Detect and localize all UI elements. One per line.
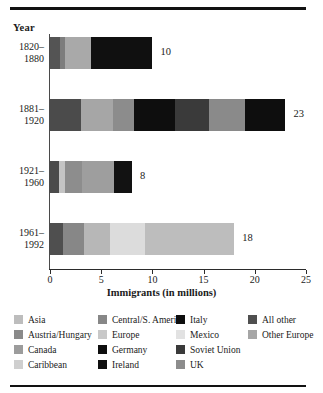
plot-area: Year 0510152025 1023818 1820–18801881–19…: [0, 18, 323, 280]
x-tick-label: 25: [293, 274, 319, 285]
bar-value-label: 8: [140, 170, 145, 181]
x-axis-line: [49, 269, 306, 270]
bar-value-label: 18: [242, 232, 253, 243]
bar-segment: [114, 161, 131, 193]
legend-column: ItalyMexicoSoviet UnionUK: [176, 312, 240, 372]
legend-item: All other: [248, 312, 313, 327]
legend-label: Austria/Hungary: [28, 330, 92, 340]
bar-segment: [63, 223, 83, 255]
stacked-bar: [50, 99, 286, 131]
bar-segment: [65, 37, 91, 69]
bar-value-label: 23: [294, 108, 305, 119]
bar-segment: [134, 99, 175, 131]
legend-column: Central/S. AmericaEuropeGermanyIreland: [98, 312, 185, 372]
legend: AsiaAustria/HungaryCanadaCaribbeanCentra…: [0, 312, 323, 380]
y-axis-label-line: 1881–: [0, 103, 44, 115]
legend-swatch: [176, 345, 185, 354]
bar-row: [50, 223, 234, 255]
y-axis-label-line: 1960: [0, 177, 44, 189]
legend-label: Ireland: [112, 360, 139, 370]
bar-segment: [245, 99, 286, 131]
legend-swatch: [248, 315, 257, 324]
legend-label: UK: [190, 360, 204, 370]
legend-label: Germany: [112, 345, 147, 355]
x-axis-title: Immigrants (in millions): [0, 287, 323, 298]
y-axis-label-line: 1992: [0, 239, 44, 251]
legend-label: Asia: [28, 315, 45, 325]
bottom-rule: [10, 385, 306, 387]
bar-row: [50, 161, 132, 193]
legend-swatch: [14, 315, 23, 324]
legend-label: Soviet Union: [190, 345, 240, 355]
legend-swatch: [98, 345, 107, 354]
y-axis-label: 1921–1960: [0, 165, 44, 188]
bar-segment: [145, 223, 234, 255]
bar-segment: [84, 223, 111, 255]
legend-item: Germany: [98, 342, 185, 357]
stacked-bar: [50, 223, 234, 255]
bar-segment: [50, 37, 60, 69]
y-axis-label: 1881–1920: [0, 103, 44, 126]
stacked-bar: [50, 161, 132, 193]
legend-item: Mexico: [176, 327, 240, 342]
bar-segment: [175, 99, 209, 131]
legend-label: Central/S. America: [112, 315, 185, 325]
y-axis-label-line: 1920: [0, 115, 44, 127]
y-axis-label-line: 1921–: [0, 165, 44, 177]
legend-swatch: [98, 360, 107, 369]
x-tick-label: 20: [242, 274, 268, 285]
y-axis-label-line: 1961–: [0, 227, 44, 239]
legend-item: Asia: [14, 312, 92, 327]
x-tick-label: 5: [88, 274, 114, 285]
legend-label: Italy: [190, 315, 207, 325]
legend-swatch: [176, 330, 185, 339]
bar-segment: [91, 37, 152, 69]
legend-label: Caribbean: [28, 360, 67, 370]
bar-value-label: 10: [160, 46, 171, 57]
x-tick-label: 15: [191, 274, 217, 285]
legend-swatch: [98, 315, 107, 324]
top-rule: [10, 7, 306, 10]
legend-label: Other Europe: [262, 330, 313, 340]
bar-segment: [50, 223, 63, 255]
legend-swatch: [176, 360, 185, 369]
y-axis-label-line: 1820–: [0, 41, 44, 53]
y-axis-label: 1820–1880: [0, 41, 44, 64]
bar-segment: [81, 99, 114, 131]
y-axis-label-line: 1880: [0, 53, 44, 65]
legend-item: Other Europe: [248, 327, 313, 342]
y-axis-label: 1961–1992: [0, 227, 44, 250]
legend-swatch: [14, 330, 23, 339]
x-tick-label: 10: [139, 274, 165, 285]
bar-segment: [65, 161, 81, 193]
x-tick-label: 0: [37, 274, 63, 285]
legend-item: Austria/Hungary: [14, 327, 92, 342]
year-axis-header: Year: [13, 22, 35, 33]
bar-segment: [82, 161, 115, 193]
legend-column: AsiaAustria/HungaryCanadaCaribbean: [14, 312, 92, 372]
legend-item: Europe: [98, 327, 185, 342]
legend-item: Caribbean: [14, 357, 92, 372]
chart-figure: Year 0510152025 1023818 1820–18801881–19…: [0, 0, 323, 393]
legend-item: Italy: [176, 312, 240, 327]
stacked-bar: [50, 37, 152, 69]
legend-label: Mexico: [190, 330, 219, 340]
bar-segment: [50, 99, 81, 131]
legend-item: Ireland: [98, 357, 185, 372]
bar-row: [50, 37, 152, 69]
bar-segment: [50, 161, 59, 193]
legend-item: UK: [176, 357, 240, 372]
bar-row: [50, 99, 286, 131]
legend-item: Soviet Union: [176, 342, 240, 357]
legend-label: All other: [262, 315, 296, 325]
legend-swatch: [14, 360, 23, 369]
legend-swatch: [14, 345, 23, 354]
bar-segment: [110, 223, 145, 255]
legend-item: Central/S. America: [98, 312, 185, 327]
legend-swatch: [248, 330, 257, 339]
bar-segment: [209, 99, 245, 131]
legend-item: Canada: [14, 342, 92, 357]
legend-swatch: [176, 315, 185, 324]
legend-label: Canada: [28, 345, 57, 355]
legend-label: Europe: [112, 330, 139, 340]
